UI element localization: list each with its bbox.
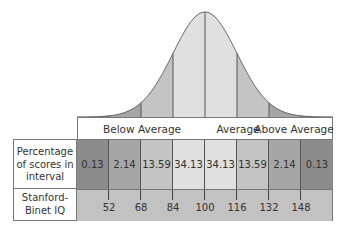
group-above-average: Above Average	[254, 118, 334, 140]
label-divider	[14, 188, 76, 189]
curve-segment	[205, 12, 237, 117]
iq-value: 52	[94, 202, 124, 213]
normal-curve	[0, 0, 343, 118]
percent-cell: 2.14	[109, 140, 141, 189]
percent-label-3: interval	[14, 171, 76, 184]
iq-value: 116	[222, 202, 252, 213]
percent-cell: 13.59	[141, 140, 173, 189]
percent-cell: 34.13	[173, 140, 205, 189]
iq-label-2: Binet IQ	[14, 205, 76, 218]
percent-cell: 0.13	[301, 140, 333, 189]
iq-tick	[108, 190, 109, 200]
curve-segment	[173, 12, 205, 117]
row-labels: Percentage of scores in interval Stanfor…	[13, 139, 77, 221]
group-header-row: Below Average Average Above Average	[77, 117, 333, 139]
percent-label-2: of scores in	[14, 159, 76, 172]
iq-tick	[268, 190, 269, 200]
iq-row: 526884100116132148	[77, 189, 332, 221]
iq-value: 68	[126, 202, 156, 213]
percent-cell: 2.14	[269, 140, 301, 189]
iq-tick	[236, 190, 237, 200]
iq-value: 84	[158, 202, 188, 213]
percent-label-1: Percentage	[14, 146, 76, 159]
iq-tick	[204, 190, 205, 200]
group-below-average: Below Average	[78, 118, 206, 140]
percent-cell: 34.13	[205, 140, 237, 189]
percent-cell: 13.59	[237, 140, 269, 189]
iq-value: 100	[190, 202, 220, 213]
iq-tick	[300, 190, 301, 200]
iq-value: 148	[286, 202, 316, 213]
iq-tick	[140, 190, 141, 200]
iq-tick	[172, 190, 173, 200]
iq-value: 132	[254, 202, 284, 213]
data-grid: 0.132.1413.5934.1334.1313.592.140.13 526…	[77, 139, 333, 221]
percent-cell: 0.13	[77, 140, 109, 189]
iq-label-1: Stanford-	[14, 192, 76, 205]
